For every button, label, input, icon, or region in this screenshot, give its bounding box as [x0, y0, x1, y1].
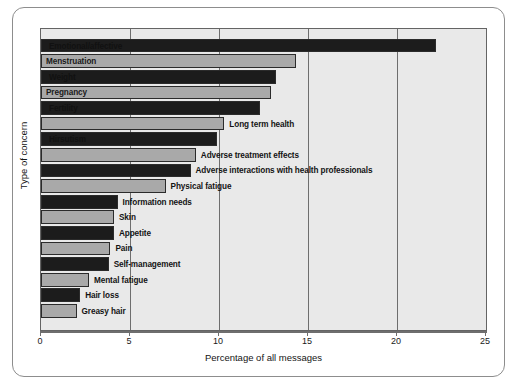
- bar-label: Physical fatigue: [171, 182, 232, 191]
- bar-row[interactable]: Adverse treatment effects: [41, 148, 486, 162]
- bar[interactable]: [41, 164, 191, 178]
- y-axis-label: Type of concern: [18, 71, 29, 241]
- bar-label: Emotional/affective: [49, 41, 122, 50]
- bar[interactable]: [41, 179, 166, 193]
- bar-row[interactable]: Mental fatigue: [41, 273, 486, 287]
- bar[interactable]: [41, 195, 118, 209]
- bar[interactable]: [41, 288, 80, 302]
- bar-label: Information needs: [123, 197, 192, 206]
- x-tick-label-20: 20: [391, 336, 401, 346]
- bar[interactable]: [41, 273, 89, 287]
- bar-label: Fertility: [49, 103, 78, 112]
- bar-label: Pain: [115, 244, 132, 253]
- bar[interactable]: [41, 242, 110, 256]
- bar-row[interactable]: Information needs: [41, 195, 486, 209]
- bar[interactable]: [41, 148, 196, 162]
- x-tick-label-15: 15: [302, 336, 312, 346]
- bar-label: Appetite: [119, 228, 151, 237]
- bar-row[interactable]: Self-management: [41, 257, 486, 271]
- bar[interactable]: [41, 70, 276, 84]
- bar-row[interactable]: Pain: [41, 242, 486, 256]
- bar-row[interactable]: Weight: [41, 70, 486, 84]
- bar-label: Hair loss: [85, 291, 119, 300]
- bar-row[interactable]: Fertility: [41, 101, 486, 115]
- bar[interactable]: [41, 210, 114, 224]
- bar-label: Weight: [49, 72, 76, 81]
- bar-row[interactable]: Hair loss: [41, 288, 486, 302]
- bar-series: Emotional/affectiveMenstruationWeightPre…: [41, 29, 486, 330]
- bar[interactable]: [41, 226, 114, 240]
- bar-row[interactable]: Appetite: [41, 226, 486, 240]
- bar-row[interactable]: Menstruation: [41, 54, 486, 68]
- bar-label: Long term health: [229, 119, 294, 128]
- bar-row[interactable]: Hirsutism: [41, 132, 486, 146]
- x-tick-label-25: 25: [480, 336, 490, 346]
- figure-page: different methodological effects of trea…: [0, 0, 517, 390]
- x-axis-line: [40, 331, 487, 333]
- bar-label: Hirsutism: [49, 135, 86, 144]
- bar-label: Menstruation: [46, 57, 96, 66]
- bar-row[interactable]: Skin: [41, 210, 486, 224]
- bar[interactable]: [41, 117, 224, 131]
- bar-label: Adverse interactions with health profess…: [196, 166, 373, 175]
- bar[interactable]: [41, 304, 77, 318]
- bar-label: Skin: [119, 213, 136, 222]
- bar-label: Adverse treatment effects: [201, 150, 299, 159]
- bar-chart: Emotional/affectiveMenstruationWeightPre…: [0, 0, 517, 390]
- bar-row[interactable]: Adverse interactions with health profess…: [41, 164, 486, 178]
- bar-row[interactable]: Pregnancy: [41, 86, 486, 100]
- bar-label: Greasy hair: [82, 306, 126, 315]
- bar-label: Mental fatigue: [94, 275, 148, 284]
- x-tick-label-10: 10: [213, 336, 223, 346]
- bar-row[interactable]: Greasy hair: [41, 304, 486, 318]
- bar-row[interactable]: Physical fatigue: [41, 179, 486, 193]
- plot-area: Emotional/affectiveMenstruationWeightPre…: [40, 28, 487, 331]
- bar-row[interactable]: Long term health: [41, 117, 486, 131]
- bar-label: Pregnancy: [46, 88, 87, 97]
- bar[interactable]: [41, 257, 109, 271]
- x-axis-label: Percentage of all messages: [40, 352, 487, 363]
- x-tick-label-0: 0: [37, 336, 42, 346]
- bar-label: Self-management: [114, 260, 181, 269]
- x-tick-label-5: 5: [126, 336, 131, 346]
- bar-row[interactable]: Emotional/affective: [41, 39, 486, 53]
